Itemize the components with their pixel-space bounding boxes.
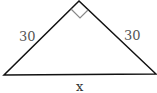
triangle-diagram: 30 30 x — [0, 0, 157, 93]
right-leg-label: 30 — [124, 28, 141, 43]
hypotenuse-label: x — [76, 79, 84, 93]
left-leg-label: 30 — [19, 29, 36, 44]
right-angle-marker — [71, 9, 88, 18]
